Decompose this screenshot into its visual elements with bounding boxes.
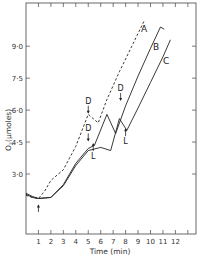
oxygen-time-chart: 123456789101112 3·04·56·07·59·0 ABC DDLD… [0, 0, 201, 261]
series-label-b: B [153, 42, 159, 52]
annotation-d: D [85, 97, 91, 106]
x-tick-label: 6 [98, 238, 103, 246]
y-tick-label: 3·0 [12, 171, 23, 179]
plot-border [26, 3, 196, 234]
arrow-head-icon [37, 204, 40, 207]
x-tick-label: 2 [49, 238, 53, 246]
y-axis-title: O2(µmoles) [4, 109, 14, 151]
arrow-head-icon [87, 138, 90, 141]
annotation-d: D [118, 84, 124, 93]
annotation-l: L [123, 137, 128, 146]
series-c-line [26, 40, 170, 199]
annotations: DDLDL [37, 84, 129, 212]
x-tick-label: 4 [74, 238, 79, 246]
x-tick-label: 7 [111, 238, 115, 246]
x-tick-label: 12 [171, 238, 180, 246]
series-label-a: A [141, 24, 148, 34]
x-tick-label: 3 [61, 238, 65, 246]
annotation-d: D [85, 124, 91, 133]
series-a-line [26, 21, 144, 199]
x-tick-label: 11 [158, 238, 167, 246]
plot-frame [26, 3, 196, 234]
arrow-head-icon [87, 111, 90, 114]
x-tick-label: 5 [86, 238, 90, 246]
x-axis-ticks: 123456789101112 [36, 3, 188, 246]
y-tick-label: 9·0 [12, 43, 23, 51]
annotation-l: L [91, 152, 96, 161]
x-tick-label: 1 [36, 238, 40, 246]
y-tick-label: 7·5 [12, 75, 23, 83]
series-lines [26, 21, 170, 199]
x-axis-title: Time (min) [89, 247, 131, 256]
series-b-line [26, 27, 164, 198]
x-tick-label: 10 [146, 238, 155, 246]
series-label-c: C [163, 56, 169, 66]
arrow-head-icon [119, 98, 122, 101]
x-tick-label: 8 [123, 238, 127, 246]
x-tick-label: 9 [136, 238, 140, 246]
y-tick-label: 6·0 [12, 107, 23, 115]
